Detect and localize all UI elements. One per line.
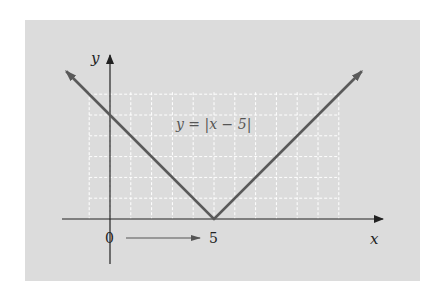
grid bbox=[89, 92, 339, 219]
equation-label: y = |x − 5| bbox=[175, 116, 251, 133]
origin-tick-label: 0 bbox=[105, 230, 114, 246]
y-axis-label: y bbox=[90, 49, 100, 67]
x-axis-label: x bbox=[370, 230, 379, 248]
line-arrow-right bbox=[214, 71, 362, 219]
line-arrow-left bbox=[66, 71, 214, 219]
vertex-tick-label: 5 bbox=[209, 230, 218, 246]
chart-svg: y x 0 5 y = |x − 5| bbox=[0, 0, 440, 294]
